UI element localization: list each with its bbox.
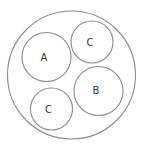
- circle-c-bottom-label: C: [45, 104, 52, 115]
- circle-b-label: B: [93, 85, 100, 96]
- circle-c-top-label: C: [87, 37, 94, 48]
- circle-c-top: C: [71, 21, 113, 63]
- circle-c-bottom: C: [31, 88, 73, 130]
- nested-circles-diagram: A C B C: [0, 0, 144, 149]
- outer-circle: [8, 11, 136, 139]
- circle-a-label: A: [41, 52, 48, 63]
- circle-a: A: [22, 33, 71, 82]
- circle-b: B: [74, 67, 123, 116]
